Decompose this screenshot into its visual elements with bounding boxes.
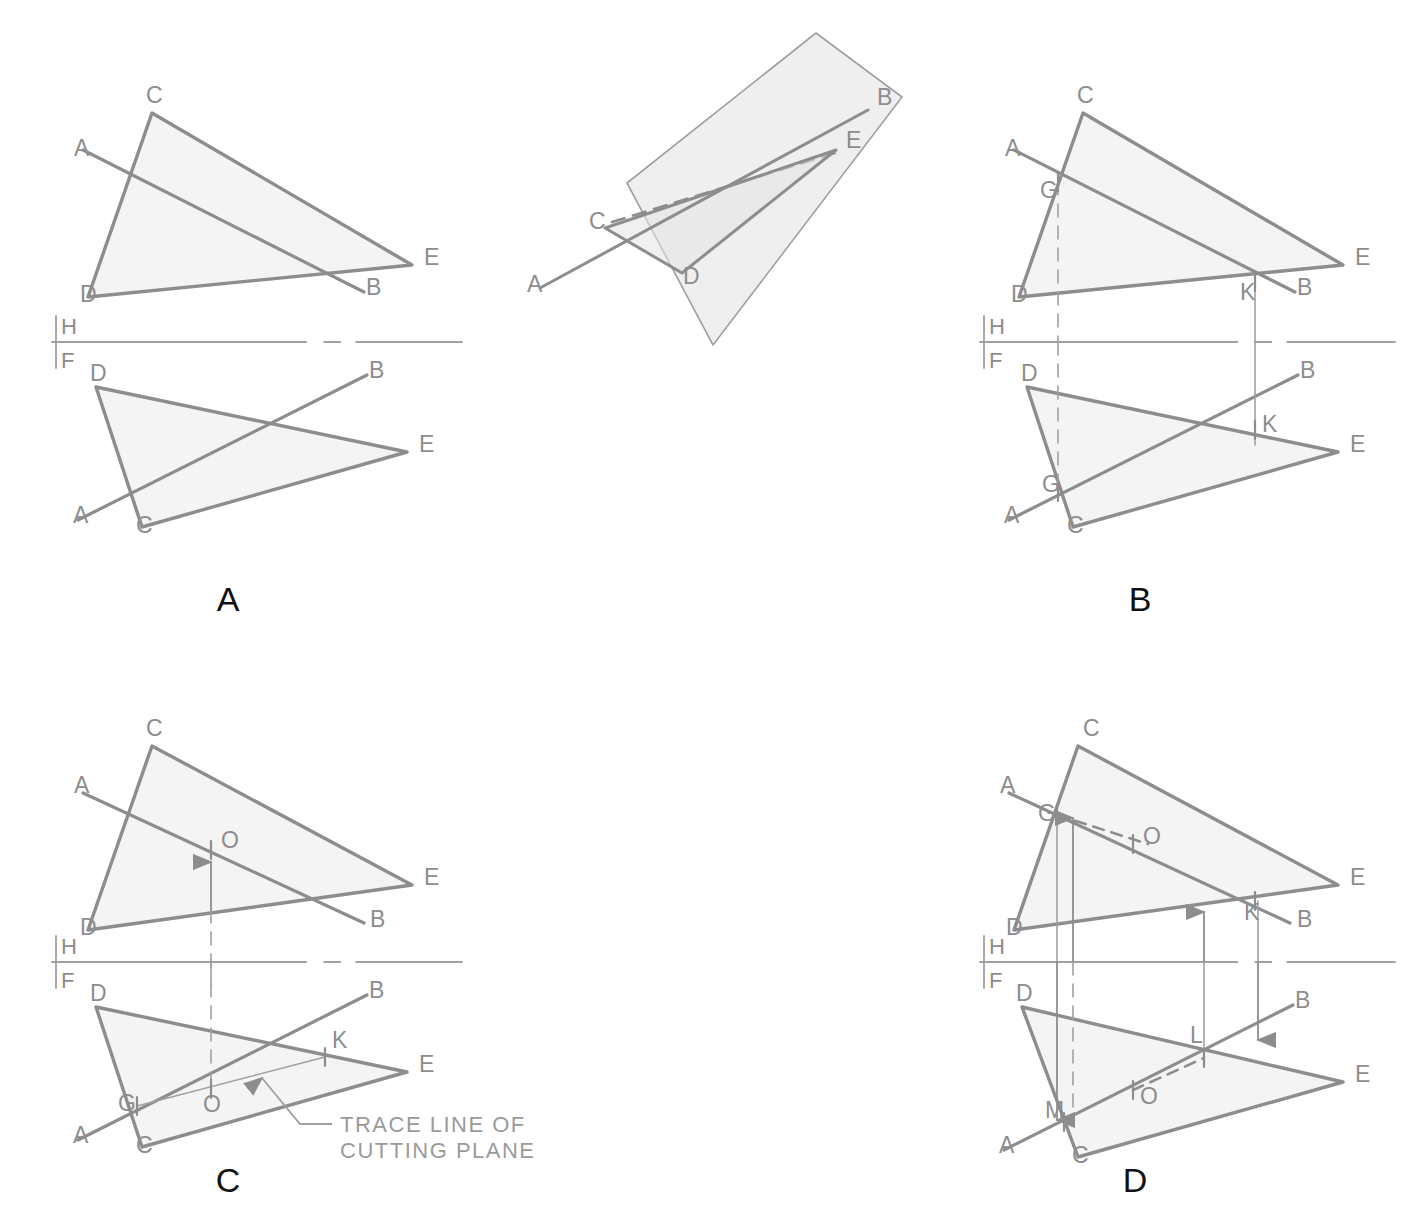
panel-a-top-label-d: D [80, 281, 97, 307]
panel-c-top-label-b: B [370, 906, 385, 932]
panel-b-top-label-c: C [1077, 82, 1094, 108]
panel-a-top-label-b: B [366, 274, 381, 300]
panel-d-top-label-d: D [1006, 914, 1023, 940]
panel-c-top-label-e: E [424, 864, 439, 890]
panel-c-front-label-a: A [73, 1122, 89, 1148]
panel-a-front-label-c: C [136, 512, 153, 538]
panel-d-reference-label-h: H [989, 934, 1005, 959]
panel-a-front-label-a: A [73, 502, 89, 528]
panel-a-front-label-d: D [90, 360, 107, 386]
panel-b-front-label-d: D [1021, 360, 1038, 386]
panel-c-front-label-e: E [419, 1051, 434, 1077]
panel-b-top-label-k: K [1240, 279, 1256, 305]
panel-d-front-label-m: M [1045, 1097, 1064, 1123]
panel-d-front-label-l: L [1190, 1022, 1203, 1048]
panel-a-caption: A [217, 580, 240, 618]
panel-d-front-triangle [1022, 1007, 1343, 1157]
panel-b-top-label-g: G [1040, 177, 1058, 203]
panel-d-front-label-o: O [1140, 1083, 1158, 1109]
panel-a-front-label-e: E [419, 431, 434, 457]
panel-c-front-label-c: C [136, 1132, 153, 1158]
panel-d-top-label-k: K [1244, 899, 1260, 925]
panel-d-top-label-o: O [1143, 823, 1161, 849]
panel-b-top-label-e: E [1355, 244, 1370, 270]
panel-b-top-label-b: B [1297, 274, 1312, 300]
panel-c-top-label-d: D [80, 914, 97, 940]
panel-c-front-label-k: K [332, 1027, 348, 1053]
panel-d-front-label-a: A [999, 1132, 1015, 1158]
panel-d-caption: D [1123, 1161, 1148, 1199]
panel-b-top-label-d: D [1011, 281, 1028, 307]
panel-d-top-label-b: B [1297, 906, 1312, 932]
panel-a-top-label-e: E [424, 244, 439, 270]
panel-c-top-label-a: A [74, 772, 90, 798]
panel-c-front-label-d: D [90, 980, 107, 1006]
panel-b-front-label-a: A [1004, 502, 1020, 528]
panel-b-front-label-c: C [1067, 512, 1084, 538]
pictorial-label-d: D [683, 263, 700, 289]
panel-a-reference-label-f: F [61, 348, 74, 373]
panel-b-front-label-b: B [1300, 357, 1315, 383]
panel-d-front-label-d: D [1016, 980, 1033, 1006]
panel-b-top-triangle [1019, 113, 1343, 297]
panel-c-front-label-b: B [369, 977, 384, 1003]
panel-c-top-triangle [88, 746, 412, 930]
panel-a-reference-label-h: H [61, 314, 77, 339]
figure-canvas: HFCADEBDBEACAHFGKCADEBGKDBEACBHFOCADEBGK… [0, 0, 1421, 1226]
panel-a-front-label-b: B [369, 357, 384, 383]
panel-d-top-label-e: E [1350, 864, 1365, 890]
panel-a-top-label-a: A [74, 135, 90, 161]
pictorial-label-b: B [877, 84, 892, 110]
panel-c-annotation-line1: TRACE LINE OF [340, 1112, 526, 1137]
panel-b-front-triangle [1027, 387, 1338, 527]
panel-c-caption: C [216, 1161, 241, 1199]
engineering-drawing: HFCADEBDBEACAHFGKCADEBGKDBEACBHFOCADEBGK… [0, 0, 1421, 1226]
pictorial-label-c: C [589, 208, 606, 234]
panel-c-reference-label-h: H [61, 934, 77, 959]
panel-d-front-label-b: B [1295, 987, 1310, 1013]
panel-b-top-label-a: A [1005, 135, 1021, 161]
panel-b-caption: B [1129, 580, 1152, 618]
panel-a-front-triangle [96, 387, 407, 527]
pictorial-label-a: A [527, 271, 543, 297]
panel-b-front-label-e: E [1350, 431, 1365, 457]
panel-a-top-label-c: C [146, 82, 163, 108]
panel-b-front-label-g: G [1042, 471, 1060, 497]
panel-b-reference-label-f: F [989, 348, 1002, 373]
panel-c-reference-label-f: F [61, 968, 74, 993]
panel-b-reference-label-h: H [989, 314, 1005, 339]
panel-c-front-label-o: O [203, 1091, 221, 1117]
panel-d-front-label-e: E [1355, 1061, 1370, 1087]
panel-a-top-triangle [88, 113, 412, 297]
panel-c-top-label-o: O [221, 827, 239, 853]
panel-d-top-label-a: A [1000, 772, 1016, 798]
panel-d-top-label-g: G [1038, 800, 1056, 826]
panel-d-top-triangle [1014, 746, 1338, 930]
panel-b-front-label-k: K [1262, 411, 1278, 437]
panel-c-annotation-line2: CUTTING PLANE [340, 1138, 536, 1163]
panel-c-top-label-c: C [146, 715, 163, 741]
panel-d-reference-label-f: F [989, 968, 1002, 993]
panel-d-front-label-c: C [1072, 1142, 1089, 1168]
panel-d-top-label-c: C [1083, 715, 1100, 741]
pictorial-label-e: E [846, 127, 861, 153]
panel-c-front-label-g: G [118, 1090, 136, 1116]
